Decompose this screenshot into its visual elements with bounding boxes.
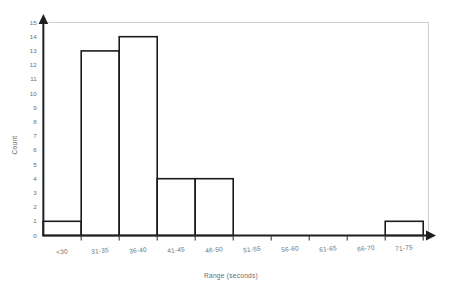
x-tick-label: 51-55 (243, 245, 261, 254)
y-tick-label: 9 (33, 104, 37, 111)
y-tick-label: 4 (33, 175, 37, 182)
y-tick-label: 3 (33, 189, 37, 196)
y-tick-label: 15 (30, 19, 38, 26)
chart-canvas: 15 14 13 12 11 10 9 8 7 6 5 4 3 2 1 0 (0, 0, 450, 293)
y-tick-label: 12 (30, 61, 38, 68)
x-tick-label: 46-50 (205, 245, 223, 254)
y-tick-label: 6 (33, 146, 37, 153)
x-axis-arrow-icon (426, 231, 436, 241)
histogram-bars (43, 37, 423, 236)
y-tick-label: 7 (33, 132, 37, 139)
x-axis-tick-labels: <30 31-35 36-40 41-45 46-50 51-55 56-60 … (56, 243, 413, 255)
x-tick-label: 36-40 (129, 246, 147, 255)
y-tick-label: 8 (33, 118, 37, 125)
y-tick-label: 1 (33, 217, 37, 224)
y-axis-arrow-icon (39, 14, 49, 24)
x-tick-label: 41-45 (167, 245, 185, 254)
bar-41-45 (157, 179, 195, 236)
x-axis-title: Range (seconds) (204, 272, 258, 280)
bar-71-75 (385, 221, 423, 235)
histogram-figure: 15 14 13 12 11 10 9 8 7 6 5 4 3 2 1 0 (0, 0, 450, 293)
bar-31-35 (81, 51, 119, 236)
bar-36-40 (119, 37, 157, 236)
y-tick-label: 13 (30, 47, 38, 54)
x-tick-label: 56-60 (281, 244, 299, 253)
x-tick-label: 71-75 (395, 243, 413, 252)
y-axis-tick-labels: 15 14 13 12 11 10 9 8 7 6 5 4 3 2 1 0 (30, 19, 38, 239)
x-tick-label: 61-65 (319, 244, 337, 253)
bar-lt30 (43, 221, 81, 235)
y-tick-label: 11 (30, 75, 37, 82)
y-tick-label: 5 (33, 161, 37, 168)
x-tick-label: 31-35 (91, 246, 109, 255)
y-tick-label: 2 (33, 203, 37, 210)
y-tick-label: 14 (30, 33, 38, 40)
y-tick-label: 0 (33, 232, 37, 239)
y-axis-title: Count (11, 136, 18, 155)
y-tick-label: 10 (30, 90, 38, 97)
x-tick-label: 66-70 (357, 244, 375, 253)
bar-46-50 (195, 179, 233, 236)
x-tick-label: <30 (56, 247, 68, 255)
y-axis (39, 14, 49, 236)
